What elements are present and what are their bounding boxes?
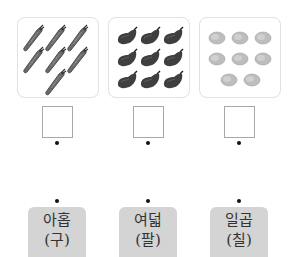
answer-box-2[interactable] [133,106,164,138]
carrot-icon-group [18,18,98,97]
round-item-icon-group [200,18,280,97]
answer-box-3[interactable] [224,106,255,138]
sino-number-word: (팔) [119,231,177,249]
lower-connect-dot-1[interactable] [55,199,59,203]
number-word-card-1[interactable]: 아홉 (구) [28,207,86,257]
lower-connect-dot-2[interactable] [146,199,150,203]
native-number-word: 여덟 [119,211,177,229]
lower-connect-dot-3[interactable] [237,199,241,203]
eggplant-icon-group [109,18,189,97]
number-word-card-2[interactable]: 여덟 (팔) [119,207,177,257]
picture-card-eggplants [108,17,190,98]
answer-box-1[interactable] [42,106,73,138]
upper-connect-dot-1[interactable] [55,141,59,145]
picture-card-round-items [199,17,281,98]
picture-card-carrots [17,17,99,98]
native-number-word: 일곱 [210,211,268,229]
native-number-word: 아홉 [28,211,86,229]
number-word-card-3[interactable]: 일곱 (칠) [210,207,268,257]
upper-connect-dot-2[interactable] [146,141,150,145]
upper-connect-dot-3[interactable] [237,141,241,145]
sino-number-word: (구) [28,231,86,249]
sino-number-word: (칠) [210,231,268,249]
